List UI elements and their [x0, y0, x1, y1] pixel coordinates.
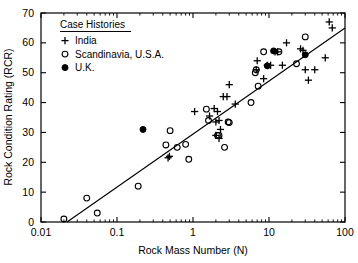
x-tick-label: 100 — [336, 226, 354, 238]
legend-item-label: India — [75, 35, 97, 46]
y-axis-title: Rock Condition Rating (RCR) — [2, 48, 14, 185]
legend-title: Case Histories — [60, 19, 125, 30]
x-axis-title: Rock Mass Number (N) — [138, 244, 248, 256]
x-tick-label: 0.01 — [31, 226, 52, 238]
x-tick-label: 10 — [263, 226, 275, 238]
data-point — [271, 48, 277, 54]
y-tick-label: 30 — [22, 126, 34, 138]
legend-item-scandinavia-u-s-a: Scandinavia, U.S.A. — [62, 49, 164, 60]
legend-item-label: Scandinavia, U.S.A. — [75, 49, 164, 60]
y-tick-label: 70 — [22, 7, 34, 19]
legend-item-label: U.K. — [75, 62, 94, 73]
x-tick-label: 0.1 — [110, 226, 125, 238]
y-tick-label: 20 — [22, 156, 34, 168]
y-tick-label: 60 — [22, 36, 34, 48]
rcr-vs-rock-mass-number-scatter-chart: 010203040506070 0.010.1110100 Rock Mass … — [0, 0, 358, 263]
data-point — [264, 63, 270, 69]
y-tick-label: 40 — [22, 96, 34, 108]
chart-figure: 010203040506070 0.010.1110100 Rock Mass … — [0, 0, 358, 263]
legend-marker-icon — [62, 65, 68, 71]
y-tick-label: 10 — [22, 186, 34, 198]
y-tick-label: 50 — [22, 66, 34, 78]
x-tick-label: 1 — [190, 226, 196, 238]
data-point — [140, 126, 146, 132]
data-point — [302, 52, 308, 58]
